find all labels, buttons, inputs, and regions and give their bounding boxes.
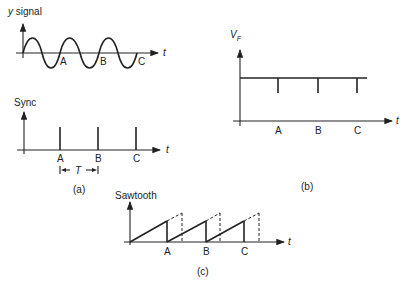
panel-a-signal: y signal t A B C	[7, 6, 167, 68]
sawtooth-ramp-3	[206, 213, 259, 242]
panel-c: Sawtooth t A B C (c)	[115, 190, 292, 277]
vf-t-label: t	[396, 115, 400, 126]
vf-mark-c: C	[354, 125, 361, 136]
caption-a: (a)	[73, 184, 85, 195]
sync-mark-b: B	[95, 153, 102, 164]
sawtooth-label: Sawtooth	[115, 190, 157, 201]
sync-mark-a: A	[57, 153, 64, 164]
period-label: T	[75, 165, 82, 176]
sync-label: Sync	[14, 97, 36, 108]
sawtooth-mark-b: B	[203, 246, 210, 257]
sync-t-label: t	[166, 144, 170, 155]
signal-t-label: t	[163, 47, 167, 58]
vf-mark-b: B	[315, 125, 322, 136]
sync-mark-c: C	[133, 153, 140, 164]
caption-b: (b)	[301, 181, 313, 192]
sawtooth-t-label: t	[288, 236, 292, 247]
sawtooth-mark-c: C	[241, 246, 248, 257]
signal-label: y signal	[7, 6, 42, 17]
sawtooth-ramp-2	[167, 213, 220, 242]
vf-mark-a: A	[275, 125, 282, 136]
vf-label: VF	[230, 29, 242, 42]
caption-c: (c)	[197, 266, 209, 277]
signal-mark-c: C	[138, 56, 145, 67]
signal-mark-b: B	[100, 56, 107, 67]
signal-mark-a: A	[60, 56, 67, 67]
panel-b: VF t A B C (b)	[230, 29, 400, 192]
sawtooth-mark-a: A	[164, 246, 171, 257]
panel-a-sync: Sync t A B C T (a)	[14, 97, 170, 195]
diagram-canvas: y signal t A B C Sync t A B C T (a)	[0, 0, 408, 287]
